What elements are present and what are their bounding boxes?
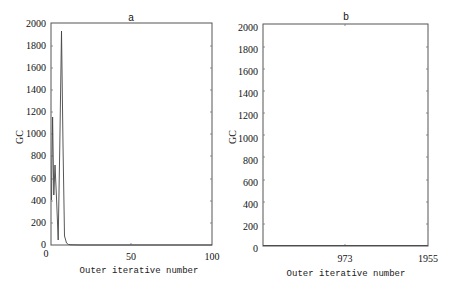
y-tick-label: 0: [253, 243, 258, 254]
panel-a-y-ticks: [51, 46, 212, 245]
panel-a-x-axis-title: Outer iterative number: [80, 266, 199, 276]
x-tick-label: 50: [126, 251, 136, 262]
y-tick-label: 1200: [26, 106, 46, 117]
y-tick-label: 1400: [26, 84, 46, 95]
y-tick-label: 2000: [238, 22, 258, 33]
panel-b-y-ticks: [263, 24, 428, 246]
y-tick-label: 400: [31, 195, 46, 206]
panel-b: b 0 200 400 600 800 1000 1200 1400 1600 …: [227, 11, 438, 279]
x-tick-label: 100: [205, 251, 220, 262]
panel-a-plot-frame: [51, 23, 212, 245]
panel-a-y-tick-labels: 0 200 400 600 800 1000 1200 1400 1600 18…: [26, 18, 46, 250]
panel-a-gc-line: [52, 31, 213, 245]
x-tick-label: 0: [44, 248, 49, 259]
y-tick-label: 400: [243, 199, 258, 210]
y-tick-label: 800: [243, 155, 258, 166]
y-tick-label: 1000: [26, 128, 46, 139]
x-tick-label: 1955: [418, 253, 438, 264]
panel-b-y-tick-labels: 0 200 400 600 800 1000 1200 1400 1600 18…: [238, 22, 258, 254]
y-tick-label: 200: [243, 221, 258, 232]
y-tick-label: 1800: [26, 40, 46, 51]
y-tick-label: 800: [31, 150, 46, 161]
panel-b-x-axis-title: Outer iterative number: [287, 269, 406, 279]
y-tick-label: 1800: [238, 44, 258, 55]
y-tick-label: 1000: [238, 133, 258, 144]
panel-a: a 0 200 400 600 800 1000 1200 1400 1600 …: [14, 12, 220, 276]
panel-a-y-axis-title: GC: [14, 130, 25, 144]
panel-b-y-axis-title: GC: [227, 130, 238, 144]
panel-a-title: a: [128, 12, 134, 23]
y-tick-label: 1600: [238, 66, 258, 77]
panel-b-plot-frame: [263, 24, 428, 246]
y-tick-label: 600: [31, 173, 46, 184]
y-tick-label: 1200: [238, 110, 258, 121]
figure: a 0 200 400 600 800 1000 1200 1400 1600 …: [0, 0, 449, 287]
y-tick-label: 600: [243, 177, 258, 188]
x-tick-label: 973: [338, 253, 353, 264]
y-tick-label: 1400: [238, 88, 258, 99]
y-tick-label: 1600: [26, 62, 46, 73]
y-tick-label: 2000: [26, 18, 46, 29]
panel-b-title: b: [343, 11, 349, 22]
y-tick-label: 200: [31, 217, 46, 228]
